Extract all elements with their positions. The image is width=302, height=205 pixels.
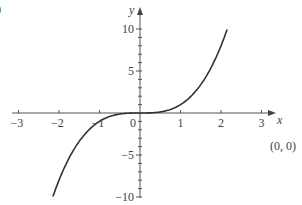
y-axis-arrow-icon xyxy=(137,7,143,15)
x-axis-arrow-icon xyxy=(268,110,276,116)
x-tick-label: 0 xyxy=(130,117,136,129)
cubic-plot xyxy=(0,0,302,205)
x-tick-label: 2 xyxy=(218,117,224,129)
x-axis-label: x xyxy=(277,114,282,126)
y-tick-label: −5 xyxy=(121,149,134,161)
x-tick-label: −1 xyxy=(92,117,105,129)
x-tick-label: −3 xyxy=(11,117,24,129)
x-tick-label: 3 xyxy=(259,117,265,129)
y-tick-label: 10 xyxy=(122,23,134,35)
origin-annotation: (0, 0) xyxy=(270,140,296,152)
x-tick-label: 1 xyxy=(178,117,184,129)
y-tick-label: −10 xyxy=(115,191,134,203)
axes xyxy=(12,13,270,198)
y-tick-label: 5 xyxy=(128,65,134,77)
x-tick-label: −2 xyxy=(51,117,64,129)
y-axis-label: y xyxy=(129,4,134,16)
